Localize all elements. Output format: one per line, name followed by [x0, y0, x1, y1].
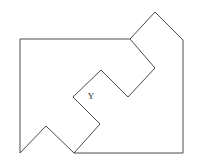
geometry-figure-canvas: Y: [0, 0, 198, 164]
vertex-label-y: Y: [88, 91, 95, 101]
